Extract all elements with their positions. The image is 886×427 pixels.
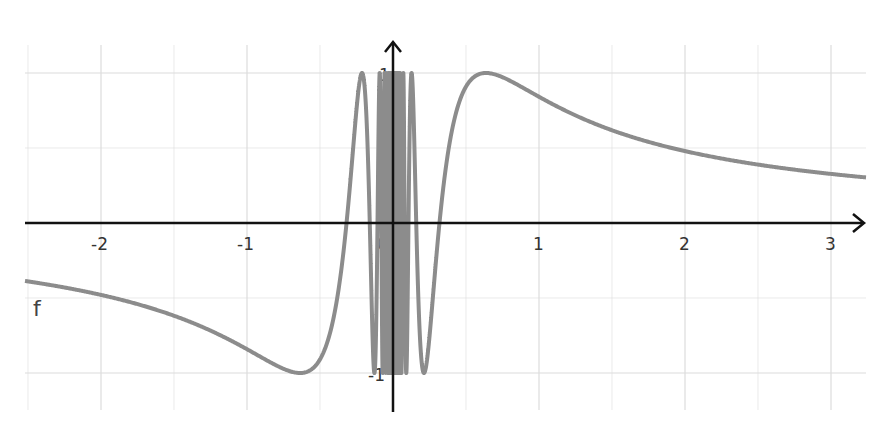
- x-tick-label: 1: [533, 234, 544, 254]
- grid-lines: [25, 45, 866, 410]
- x-tick-label: -2: [91, 234, 108, 254]
- x-tick-label: 3: [825, 234, 836, 254]
- axes: [25, 42, 864, 412]
- x-tick-label: 2: [679, 234, 690, 254]
- x-tick-labels: -2-10123: [91, 234, 836, 254]
- function-plot: -2-10123 -11 f: [0, 0, 886, 427]
- x-tick-label: -1: [237, 234, 254, 254]
- function-label: f: [33, 296, 42, 321]
